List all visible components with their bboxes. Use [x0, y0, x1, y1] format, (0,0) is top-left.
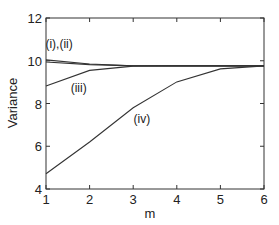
- plot-frame: [46, 18, 264, 189]
- y-tick-label: 10: [28, 54, 42, 69]
- series-line-i: [46, 60, 264, 66]
- series-annotations: (i),(ii)(iii)(iv): [45, 37, 150, 126]
- series-annotation: (i),(ii): [45, 37, 72, 51]
- y-tick-label: 4: [35, 182, 42, 197]
- x-tick-label: 5: [217, 192, 224, 207]
- series-annotation: (iv): [134, 112, 151, 126]
- y-tick-label: 12: [28, 11, 42, 26]
- y-tick-label: 6: [35, 139, 42, 154]
- x-tick-label: 1: [42, 192, 49, 207]
- x-tick-label: 4: [173, 192, 180, 207]
- plot-lines: [46, 60, 264, 174]
- x-tick-label: 6: [260, 192, 267, 207]
- x-axis-label: m: [145, 206, 156, 221]
- line-chart: 1234564681012 (i),(ii)(iii)(iv) m Varian…: [0, 0, 279, 225]
- x-tick-label: 2: [86, 192, 93, 207]
- y-tick-label: 8: [35, 97, 42, 112]
- y-axis-label: Variance: [5, 78, 20, 128]
- series-annotation: (iii): [71, 81, 87, 95]
- x-tick-label: 3: [130, 192, 137, 207]
